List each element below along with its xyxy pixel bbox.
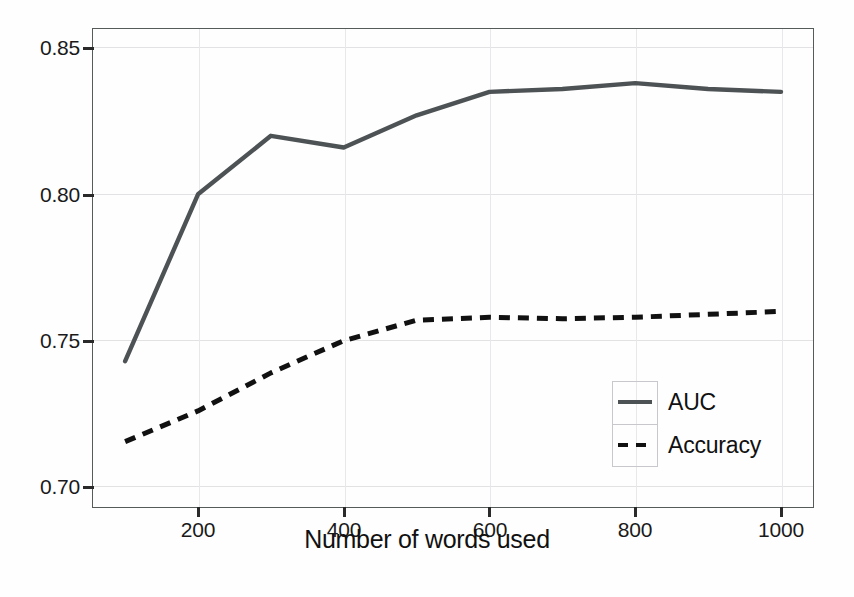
chart-figure: 0.85 0.80 0.75 0.70 200 400 600 800 1000… <box>0 0 854 597</box>
legend-item-accuracy[interactable]: Accuracy <box>612 424 842 467</box>
gridline-x-200 <box>199 29 200 507</box>
legend-item-auc[interactable]: AUC <box>612 381 842 424</box>
ytick-label-075: 0.75 <box>0 329 80 353</box>
gridline-y-070 <box>93 486 813 487</box>
ytick-mark-070 <box>83 486 94 489</box>
legend-label-accuracy: Accuracy <box>668 432 761 459</box>
gridline-x-600 <box>490 29 491 507</box>
xtick-mark-600 <box>488 507 491 517</box>
x-axis-label: Number of words used <box>0 525 854 554</box>
legend-line-sample-solid-icon <box>618 400 652 404</box>
gridline-y-085 <box>93 47 813 48</box>
gridline-y-075 <box>93 340 813 341</box>
gridline-y-080 <box>93 194 813 195</box>
legend-label-auc: AUC <box>668 389 716 416</box>
xtick-mark-400 <box>343 507 346 517</box>
xtick-mark-800 <box>634 507 637 517</box>
ytick-label-080: 0.80 <box>0 183 80 207</box>
legend-line-sample-dashed-icon <box>618 443 652 447</box>
ytick-label-085: 0.85 <box>0 36 80 60</box>
xtick-mark-200 <box>197 507 200 517</box>
xtick-mark-1000 <box>780 507 783 517</box>
ytick-mark-075 <box>83 340 94 343</box>
ytick-mark-080 <box>83 194 94 197</box>
ytick-mark-085 <box>83 47 94 50</box>
gridline-x-400 <box>345 29 346 507</box>
ytick-label-070: 0.70 <box>0 475 80 499</box>
